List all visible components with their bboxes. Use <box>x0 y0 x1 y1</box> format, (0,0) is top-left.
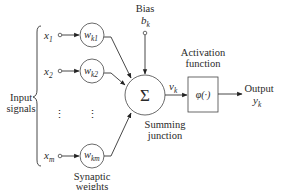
svg-text:x1: x1 <box>43 29 53 44</box>
sigma-symbol: Σ <box>140 86 150 105</box>
neuron-model-diagram: Input signals x1 wk1 x2 wk2 ⋮ ⋮ xm wkm S… <box>0 0 288 190</box>
input-node-xm <box>58 154 62 158</box>
svg-text:x2: x2 <box>43 65 53 80</box>
input-x2: x2 wk2 <box>43 59 125 85</box>
summing-junction-label-line2: junction <box>147 130 183 141</box>
bias-node <box>143 31 147 35</box>
output-symbol: yk <box>252 94 262 109</box>
input-ellipsis: ⋮ <box>54 109 65 120</box>
input-brace <box>33 26 41 166</box>
input-signals-label-line2: signals <box>6 103 35 114</box>
svg-text:xm: xm <box>43 149 55 164</box>
weight-ellipsis: ⋮ <box>87 109 98 120</box>
input-signals-label-line1: Input <box>10 92 32 103</box>
activation-symbol: φ(·) <box>196 89 211 101</box>
bias-label: Bias <box>136 3 155 14</box>
activation-label-line1: Activation <box>181 47 226 58</box>
activation-label-line2: function <box>186 58 222 69</box>
induced-field-symbol: vk <box>169 80 178 95</box>
input-node-x1 <box>58 33 62 37</box>
synaptic-weights-label-line2: weights <box>76 181 109 190</box>
output-label: Output <box>244 83 273 94</box>
input-node-x2 <box>58 69 62 73</box>
summing-junction-label-line1: Summing <box>145 119 187 130</box>
input-xm: xm wkm <box>43 113 131 168</box>
bias-symbol: bk <box>141 14 151 29</box>
